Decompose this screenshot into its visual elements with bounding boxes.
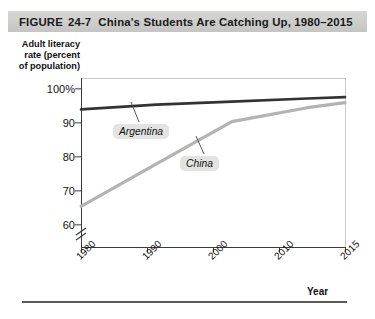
series-label-argentina: Argentina bbox=[113, 124, 169, 139]
bottom-caption bbox=[22, 310, 352, 318]
series-label-china: China bbox=[180, 156, 219, 171]
bottom-divider bbox=[22, 301, 347, 303]
figure-card: FIGURE24-7China's Students Are Catching … bbox=[0, 0, 375, 319]
page-title: FIGURE24-7China's Students Are Catching … bbox=[19, 16, 353, 28]
figure-label: FIGURE bbox=[19, 16, 63, 28]
figure-title: China's Students Are Catching Up, 1980–2… bbox=[98, 16, 352, 28]
series-line-china bbox=[81, 103, 345, 207]
chart-plot-area: Adult literacy rate (percent of populati… bbox=[0, 32, 375, 295]
figure-title-bar: FIGURE24-7China's Students Are Catching … bbox=[8, 11, 367, 32]
figure-number: 24-7 bbox=[68, 16, 91, 28]
